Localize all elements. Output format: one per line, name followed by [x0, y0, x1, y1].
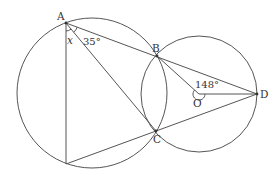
label-C: C — [153, 133, 161, 145]
diagram-canvas: A B C D O x 35° 148° — [0, 0, 279, 177]
angle-arc-x — [66, 29, 71, 31]
label-angle-x: x — [67, 34, 73, 46]
label-O: O — [193, 97, 202, 109]
segment-AD — [66, 23, 257, 94]
point-A-dot — [65, 22, 68, 25]
label-angle-148: 148° — [195, 79, 219, 90]
label-angle-35: 35° — [83, 36, 101, 47]
segment-ED — [66, 94, 257, 164]
point-C-dot — [155, 130, 158, 133]
label-A: A — [56, 10, 65, 22]
label-D: D — [260, 88, 268, 100]
segment-BO — [157, 56, 199, 94]
point-D-dot — [256, 93, 259, 96]
label-B: B — [152, 42, 160, 54]
angle-arc-35 — [74, 27, 78, 32]
point-B-dot — [156, 55, 159, 58]
geometry-diagram: A B C D O x 35° 148° — [0, 0, 279, 177]
